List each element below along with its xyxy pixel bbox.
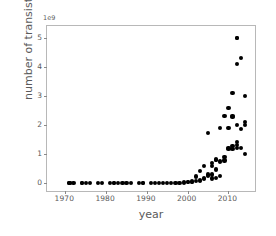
data-point [226, 126, 230, 130]
data-point [235, 62, 239, 66]
data-point [129, 181, 133, 185]
data-point [243, 152, 247, 156]
data-point [235, 36, 239, 40]
x-axis-tick-label: 1980 [95, 194, 115, 203]
y-axis-tick [44, 38, 47, 39]
figure: 1e9 012345 19701980199020002010 year num… [0, 0, 276, 236]
data-point [218, 126, 222, 130]
data-point [243, 120, 247, 124]
x-axis-tick-label: 2010 [218, 194, 238, 203]
x-axis-tick-label: 1970 [55, 194, 75, 203]
plot-area [47, 26, 255, 191]
data-point [239, 146, 243, 150]
y-axis-title: number of transistors [22, 0, 35, 116]
data-point [141, 181, 145, 185]
data-point [206, 131, 210, 135]
y-axis-tick-label: 0 [31, 177, 42, 186]
data-point [218, 174, 222, 178]
data-point [222, 155, 226, 159]
y-axis-tick [44, 183, 47, 184]
y-axis-tick [44, 154, 47, 155]
data-point [239, 56, 243, 60]
data-point [243, 94, 247, 98]
data-point [198, 169, 202, 173]
y-axis-tick [44, 96, 47, 97]
data-point [230, 91, 234, 95]
x-axis-tick-label: 1990 [136, 194, 156, 203]
y-axis-tick [44, 67, 47, 68]
data-point [222, 158, 226, 162]
y-axis-offset-label: 1e9 [43, 14, 55, 22]
data-point [222, 114, 226, 118]
x-axis-title: year [46, 208, 256, 221]
data-point [71, 181, 75, 185]
data-point [214, 167, 218, 171]
plot-axes [46, 25, 256, 192]
x-axis-tick-label: 2000 [177, 194, 197, 203]
data-point [202, 164, 206, 168]
y-axis-tick-label: 1 [31, 148, 42, 157]
data-point [124, 181, 128, 185]
data-point [239, 127, 243, 131]
y-axis-tick-label: 2 [31, 120, 42, 129]
data-point [88, 181, 92, 185]
data-point [235, 123, 239, 127]
data-point [100, 181, 104, 185]
y-axis-tick [44, 125, 47, 126]
data-point [226, 106, 230, 110]
